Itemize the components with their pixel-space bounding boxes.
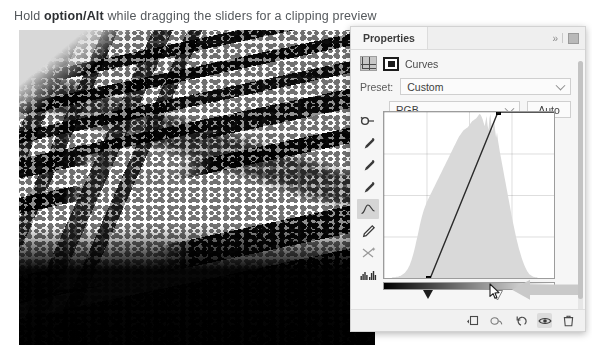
panel-tab-bar: Properties » xyxy=(351,27,585,50)
white-point-eyedropper-icon[interactable] xyxy=(357,177,379,197)
pencil-draw-curve-icon[interactable] xyxy=(357,221,379,241)
curves-tool-column xyxy=(355,111,381,285)
preset-label: Preset: xyxy=(360,81,393,93)
caption-suffix: while dragging the sliders for a clippin… xyxy=(104,9,377,23)
gray-point-eyedropper-icon[interactable] xyxy=(357,155,379,175)
panel-scrollbar[interactable] xyxy=(578,61,583,323)
adjustment-label: Curves xyxy=(405,58,438,70)
tab-properties-label: Properties xyxy=(363,32,415,44)
tab-properties[interactable]: Properties xyxy=(351,27,428,49)
panel-scrollbar-thumb[interactable] xyxy=(578,61,583,299)
panel-tab-controls: » xyxy=(552,27,579,49)
preset-row: Preset: Custom xyxy=(351,75,585,101)
photo-highlight-corner xyxy=(19,30,375,345)
smooth-curve-icon[interactable] xyxy=(357,243,379,263)
divider xyxy=(562,33,563,43)
screenshot-root: Hold option/Alt while dragging the slide… xyxy=(0,0,592,360)
black-point-eyedropper-icon[interactable] xyxy=(357,133,379,153)
curve-point-tool-icon[interactable] xyxy=(357,199,379,219)
reset-adjustment-icon[interactable] xyxy=(513,313,528,328)
black-point-slider[interactable] xyxy=(423,290,433,299)
curve-point-white[interactable] xyxy=(496,111,501,115)
caption-prefix: Hold xyxy=(14,9,44,23)
adjustment-header-row: Curves xyxy=(351,50,585,75)
preset-value: Custom xyxy=(407,81,443,93)
histogram-toggle-icon[interactable] xyxy=(357,265,379,285)
panel-menu-icon[interactable] xyxy=(568,33,579,44)
delete-adjustment-layer-icon[interactable] xyxy=(561,313,576,328)
curves-adjustment-icon[interactable] xyxy=(360,56,377,71)
layer-mask-icon[interactable] xyxy=(383,57,399,71)
view-previous-state-icon[interactable] xyxy=(489,313,504,328)
clip-to-layer-icon[interactable] xyxy=(465,313,480,328)
chevron-down-icon xyxy=(556,80,566,90)
targeted-adjustment-tool-icon[interactable] xyxy=(357,111,379,131)
double-chevron-right-icon[interactable]: » xyxy=(552,33,557,44)
curve-point-black[interactable] xyxy=(426,276,431,280)
caption-bold: option/Alt xyxy=(44,9,104,23)
photo-canvas xyxy=(19,30,375,345)
panel-bottom-toolbar xyxy=(351,309,585,331)
curves-graph-area xyxy=(383,111,555,302)
caption-text: Hold option/Alt while dragging the slide… xyxy=(14,9,377,23)
left-pointing-arrow-annotation xyxy=(500,279,578,301)
preset-select[interactable]: Custom xyxy=(400,78,571,95)
curves-grid[interactable] xyxy=(383,111,555,279)
toggle-layer-visibility-icon[interactable] xyxy=(537,313,552,328)
tone-curve-line xyxy=(384,112,554,279)
